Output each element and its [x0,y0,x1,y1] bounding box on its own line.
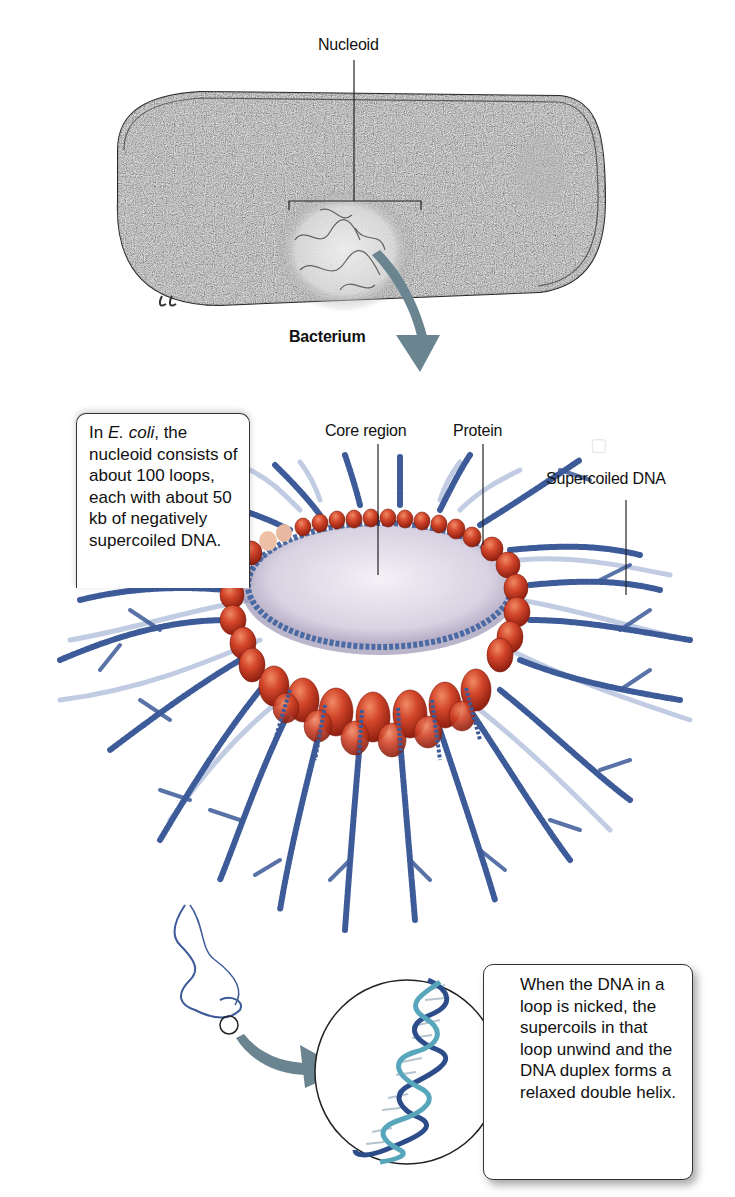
nucleoid-label: Nucleoid [318,36,379,54]
protein-label: Protein [453,422,502,440]
ecoli-nucleoid-callout: In E. coli, the nucleoid consists of abo… [76,413,250,588]
relaxed-helix-callout: When the DNA in a loop is nicked, the su… [483,964,693,1180]
bacterium-micrograph [118,92,605,312]
magnified-helix-view [315,980,499,1164]
supercoiled-dna-label: Supercoiled DNA [546,470,666,488]
bacterium-label: Bacterium [289,328,365,346]
relaxed-dna-strand [175,905,241,1034]
callout-prefix: In [89,423,108,442]
callout-body: When the DNA in a loop is nicked, the su… [520,975,676,1102]
nick-site-circle [220,1016,238,1034]
core-region-label: Core region [325,422,406,440]
bleed-through-text: ▢ [590,434,607,456]
species-name: E. coli [108,423,154,442]
